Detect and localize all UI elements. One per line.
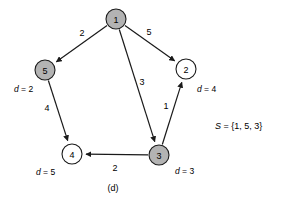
- node-label-1: 1: [113, 15, 118, 25]
- graph-edge-3-to-4: [86, 154, 148, 155]
- edge-weight-1-2: 5: [146, 27, 151, 37]
- distance-value-4: = 5: [41, 167, 56, 177]
- distance-label-node-5: d = 2: [14, 84, 33, 94]
- graph-edge-5-to-4: [48, 80, 67, 140]
- node-label-4: 4: [69, 150, 74, 160]
- set-s-members: = {1, 5, 3}: [221, 121, 262, 131]
- edge-weight-1-5: 2: [79, 28, 84, 38]
- graph-node-2[interactable]: 2: [176, 59, 196, 79]
- nodes-layer: 12345: [35, 9, 196, 165]
- node-label-3: 3: [156, 151, 161, 161]
- distance-value-5: = 2: [19, 84, 34, 94]
- graph-canvas: 253142 12345 d = 2d = 4d = 5d = 3 S = {1…: [0, 0, 281, 202]
- edge-weight-3-2: 1: [163, 101, 168, 111]
- graph-node-3[interactable]: 3: [149, 145, 169, 165]
- set-s-label: S = {1, 5, 3}: [215, 121, 262, 131]
- edges-layer: [48, 25, 181, 154]
- graph-figure: 253142 12345 d = 2d = 4d = 5d = 3 S = {1…: [0, 0, 281, 202]
- graph-node-5[interactable]: 5: [35, 60, 55, 80]
- node-label-2: 2: [183, 65, 188, 75]
- edge-weight-3-4: 2: [112, 163, 117, 173]
- distance-label-node-2: d = 4: [197, 84, 216, 94]
- graph-edge-1-to-3: [119, 29, 154, 141]
- graph-node-4[interactable]: 4: [62, 144, 82, 164]
- node-label-5: 5: [42, 66, 47, 76]
- graph-edge-3-to-2: [162, 82, 182, 144]
- edge-weight-1-3: 3: [139, 77, 144, 87]
- distance-value-3: = 3: [180, 166, 195, 176]
- distance-value-2: = 4: [202, 84, 217, 94]
- distance-label-node-4: d = 5: [36, 167, 55, 177]
- graph-node-1[interactable]: 1: [106, 9, 126, 29]
- edge-weight-5-4: 4: [44, 103, 49, 113]
- figure-caption: (d): [108, 183, 119, 193]
- distance-label-node-3: d = 3: [175, 166, 194, 176]
